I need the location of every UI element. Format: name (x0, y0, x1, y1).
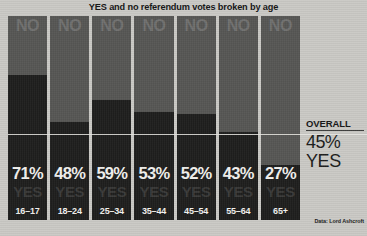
chart-figure: YES and no referendum votes broken by ag… (0, 0, 367, 236)
bar-value-label: 27% (261, 164, 300, 182)
overall-series-label: YES (306, 152, 364, 171)
overall-divider (306, 130, 364, 131)
bar-group[interactable]: NO YES 27% 65+ (261, 16, 300, 220)
bar-value-label: 59% (92, 164, 131, 182)
source-attribution: Data: Lord Ashcroft (315, 218, 364, 224)
bar-no-label: NO (177, 17, 216, 34)
bar-yes-label: YES (177, 184, 216, 200)
bar-value-label: 71% (8, 164, 47, 182)
bar-category-label: 45–54 (177, 206, 216, 216)
bar-category-label: 35–44 (134, 206, 173, 216)
bar-group[interactable]: NO YES 43% 55–64 (219, 16, 258, 220)
bar-no-label: NO (8, 17, 47, 34)
bar-yes-label: YES (134, 184, 173, 200)
bar-no-label: NO (92, 17, 131, 34)
bar-group[interactable]: NO YES 48% 18–24 (50, 16, 89, 220)
overall-panel: OVERALL 45% YES (306, 118, 364, 171)
bar-category-label: 16–17 (8, 206, 47, 216)
bar-group[interactable]: NO YES 71% 16–17 (8, 16, 47, 220)
bar-yes-label: YES (261, 184, 300, 200)
bar-no-label: NO (261, 17, 300, 34)
bar-group[interactable]: NO YES 59% 25–34 (92, 16, 131, 220)
bar-chart-plot: NO YES 71% 16–17 NO YES 48% 18–24 NO YES… (8, 16, 300, 220)
bar-no-label: NO (134, 17, 173, 34)
bar-value-label: 52% (177, 164, 216, 182)
bar-no-label: NO (50, 17, 89, 34)
bar-segment-yes (92, 100, 131, 220)
bar-category-label: 65+ (261, 206, 300, 216)
bar-yes-label: YES (8, 184, 47, 200)
bar-yes-label: YES (92, 184, 131, 200)
overall-value: 45% (306, 133, 364, 152)
bar-category-label: 25–34 (92, 206, 131, 216)
bar-category-label: 55–64 (219, 206, 258, 216)
chart-title: YES and no referendum votes broken by ag… (0, 2, 367, 12)
overall-label: OVERALL (306, 118, 364, 129)
bar-no-label: NO (219, 17, 258, 34)
bar-value-label: 48% (50, 164, 89, 182)
bar-group[interactable]: NO YES 53% 35–44 (134, 16, 173, 220)
bar-value-label: 53% (134, 164, 173, 182)
bar-yes-label: YES (50, 184, 89, 200)
bar-category-label: 18–24 (50, 206, 89, 216)
bar-yes-label: YES (219, 184, 258, 200)
bar-value-label: 43% (219, 164, 258, 182)
bar-group[interactable]: NO YES 52% 45–54 (177, 16, 216, 220)
bar-segment-no (261, 16, 300, 165)
